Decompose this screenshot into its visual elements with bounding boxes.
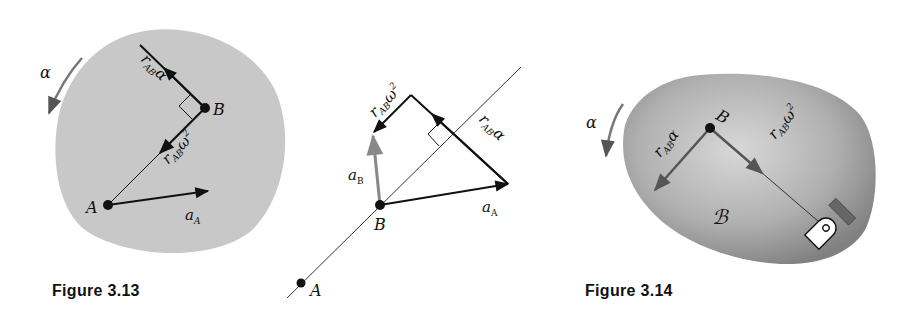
point-a — [103, 200, 113, 210]
figure-3-14: α B ℬ rABα rABω2 — [586, 74, 876, 264]
svg-text:rABα: rABα — [474, 110, 509, 145]
figure-3-13: α B A rABα rABω2 aA — [40, 29, 285, 253]
label-a-a: aA — [482, 198, 498, 218]
point-b-label: B — [212, 100, 225, 119]
svg-text:rABω2: rABω2 — [364, 80, 405, 121]
right-angle-mark — [428, 122, 440, 146]
label-r-ab-omega2: rABω2 — [364, 80, 405, 121]
point-a-label: A — [84, 198, 98, 217]
rotation-arrow — [606, 104, 623, 156]
point-a-label: A — [308, 281, 322, 300]
point-b — [705, 123, 715, 133]
alpha-label: α — [40, 63, 51, 82]
label-a-b: aB — [348, 166, 364, 186]
rigid-body — [623, 74, 876, 264]
point-b — [200, 103, 210, 113]
body-label: ℬ — [712, 205, 729, 229]
point-b-label: B — [373, 215, 386, 234]
acceleration-polygon: B A aB aA rABα rABω2 — [287, 67, 521, 300]
vector-a-b — [373, 136, 380, 205]
diagram-canvas: α B A rABα rABω2 aA — [0, 0, 911, 314]
caption-figure-3-14: Figure 3.14 — [585, 282, 673, 300]
label-r-ab-alpha: rABα — [474, 110, 509, 145]
point-a — [297, 279, 306, 288]
caption-figure-3-13: Figure 3.13 — [52, 282, 140, 300]
alpha-label: α — [586, 113, 597, 132]
point-b — [375, 200, 385, 210]
